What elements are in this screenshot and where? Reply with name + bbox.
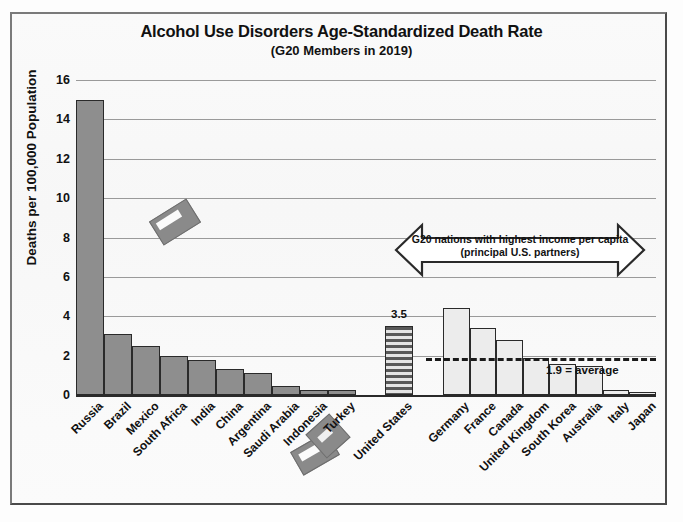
gridline xyxy=(76,198,656,199)
y-axis-tick-label: 16 xyxy=(40,73,70,87)
y-axis-tick-label: 6 xyxy=(40,270,70,284)
x-axis xyxy=(76,395,656,397)
y-axis-tick-label: 14 xyxy=(40,112,70,126)
bar-germany[interactable] xyxy=(443,308,470,395)
bar-china[interactable] xyxy=(216,369,244,395)
bar-united-states[interactable] xyxy=(385,326,413,395)
page-title: Alcohol Use Disorders Age-Standardized D… xyxy=(0,22,683,41)
average-reference-label: 1.9 = average xyxy=(546,364,619,376)
bar-russia[interactable] xyxy=(76,100,104,395)
double-arrow-icon xyxy=(394,219,646,281)
gridline xyxy=(76,119,656,120)
gridline xyxy=(76,316,656,317)
chart-subtitle: (G20 Members in 2019) xyxy=(0,43,683,58)
bar-argentina[interactable] xyxy=(244,373,272,395)
y-axis-tick-label: 12 xyxy=(40,152,70,166)
y-axis-tick-label: 4 xyxy=(40,309,70,323)
bar-value-label: 3.5 xyxy=(369,308,429,320)
bar-france[interactable] xyxy=(470,328,497,395)
bar-canada[interactable] xyxy=(496,340,523,395)
average-reference-line xyxy=(426,358,656,361)
y-axis-tick-label: 8 xyxy=(40,231,70,245)
gridline xyxy=(76,80,656,81)
chart-page: Alcohol Use Disorders Age-Standardized D… xyxy=(0,0,683,522)
bar-mexico[interactable] xyxy=(132,346,160,395)
bar-south-africa[interactable] xyxy=(160,356,188,395)
y-axis-tick-label: 10 xyxy=(40,191,70,205)
y-axis-tick-label: 2 xyxy=(40,349,70,363)
title-block: Alcohol Use Disorders Age-Standardized D… xyxy=(0,22,683,58)
y-axis-tick-label: 0 xyxy=(40,388,70,402)
bar-brazil[interactable] xyxy=(104,334,132,395)
bar-india[interactable] xyxy=(188,360,216,395)
y-axis-tick-layer: 0246810121416 xyxy=(30,0,70,522)
gridline xyxy=(76,159,656,160)
bar-saudi-arabia[interactable] xyxy=(272,386,300,395)
income-group-annotation: G20 nations with highest income per capi… xyxy=(394,219,646,281)
